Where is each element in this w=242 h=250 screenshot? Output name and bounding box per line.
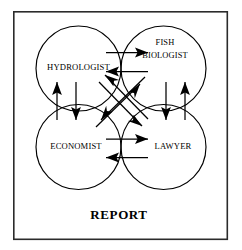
diagram-frame — [14, 12, 228, 240]
node-label-economist: ECONOMIST — [50, 141, 102, 151]
diagram-root: HYDROLOGIST FISH BIOLOGIST ECONOMIST LAW… — [0, 0, 242, 250]
node-label-fish-biologist-line2: BIOLOGIST — [142, 51, 188, 60]
node-label-lawyer: LAWYER — [155, 141, 192, 151]
node-label-hydrologist: HYDROLOGIST — [47, 62, 110, 72]
node-label-fish-biologist-line1: FISH — [156, 38, 175, 47]
report-title: REPORT — [90, 207, 147, 222]
relationship-diagram: HYDROLOGIST FISH BIOLOGIST ECONOMIST LAW… — [0, 0, 242, 250]
